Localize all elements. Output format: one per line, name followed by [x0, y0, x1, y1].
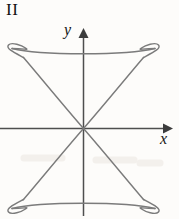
- figure-panel: II y x: [0, 0, 179, 219]
- curve-branch-upper-left: [24, 58, 84, 129]
- curve-branch-lower-right: [84, 129, 144, 200]
- paper-bleed-layer: [24, 158, 160, 163]
- y-axis-arrowhead: [79, 28, 89, 38]
- y-axis-label: y: [64, 22, 71, 38]
- curve-branch-lower-left: [24, 129, 84, 200]
- x-axis-label: x: [160, 131, 167, 147]
- panel-label: II: [6, 1, 18, 18]
- curve-plot-canvas: [0, 0, 179, 219]
- curve-branch-upper-right: [84, 58, 144, 129]
